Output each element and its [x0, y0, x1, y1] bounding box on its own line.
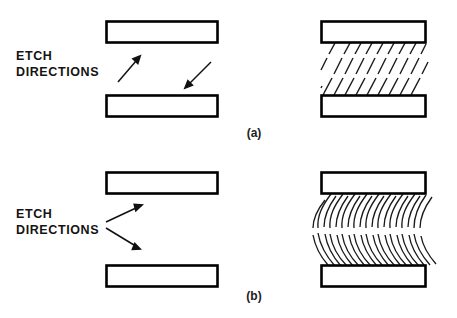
panel-a-mask-bar-bottom-left: [107, 96, 218, 117]
panel-a-etch-hatch-straight: [321, 43, 428, 95]
panel-b-arrow-up-right: [106, 203, 144, 222]
panel-a-label: (a): [247, 126, 262, 140]
panel-b-etch-label-line1: ETCH: [16, 207, 52, 221]
panel-b: ETCH DIRECTIONS (b): [16, 173, 436, 304]
panel-b-etch-label-line2: DIRECTIONS: [16, 223, 99, 237]
panel-b-mask-bar-top-right: [322, 173, 426, 194]
panel-a-arrow-up-right: [118, 55, 142, 83]
panel-a-arrow-down-left: [184, 62, 212, 90]
panel-b-left-schematic: [106, 173, 218, 287]
panel-a-mask-bar-top-left: [107, 22, 218, 43]
panel-b-arrow-down-right: [106, 228, 142, 250]
panel-b-mask-bar-bottom-right: [322, 266, 426, 287]
panel-b-annotation: ETCH DIRECTIONS: [16, 207, 99, 237]
panel-a-left-schematic: [107, 22, 218, 117]
panel-a-mask-bar-top-right: [322, 22, 426, 43]
panel-a-mask-bar-bottom-right: [322, 96, 426, 117]
panel-a-etch-label-line2: DIRECTIONS: [16, 65, 99, 79]
panel-a-etch-label-line1: ETCH: [16, 49, 52, 63]
panel-a-annotation: ETCH DIRECTIONS: [16, 49, 99, 79]
etch-directions-figure: ETCH DIRECTIONS (a): [0, 0, 457, 318]
panel-a-right-schematic: [321, 22, 428, 117]
panel-b-mask-bar-top-left: [107, 173, 218, 194]
panel-a: ETCH DIRECTIONS (a): [16, 22, 428, 141]
panel-b-mask-bar-bottom-left: [107, 266, 218, 287]
panel-b-etch-hatch-curved: [313, 194, 436, 266]
panel-b-right-schematic: [313, 173, 436, 287]
panel-b-label: (b): [246, 289, 261, 303]
